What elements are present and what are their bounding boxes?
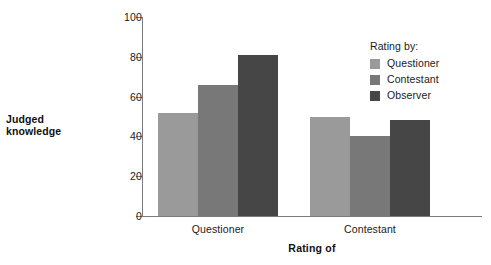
legend-title: Rating by: (370, 40, 488, 53)
x-axis-category-label: Questioner (158, 223, 278, 235)
legend-item: Contestant (370, 72, 488, 87)
y-axis-tick-label: 40 (112, 131, 142, 142)
bar (158, 113, 198, 216)
y-axis-tick-label: 60 (112, 92, 142, 103)
y-axis-tick-label: 0 (112, 211, 142, 222)
legend-item-label: Observer (387, 89, 431, 102)
legend-entries: QuestionerContestantObserver (370, 56, 488, 103)
x-axis-line (142, 216, 482, 217)
x-axis-category-label: Contestant (310, 223, 430, 235)
y-axis-title: Judged knowledge (6, 113, 98, 137)
bar (310, 117, 350, 217)
y-axis-tick-label: 80 (112, 52, 142, 63)
legend-item: Observer (370, 88, 488, 103)
bar (198, 85, 238, 216)
legend: Rating by: QuestionerContestantObserver (370, 40, 488, 104)
x-axis-title: Rating of (142, 242, 482, 254)
legend-item: Questioner (370, 56, 488, 71)
bar-chart: Judged knowledge 020406080100 Questioner… (0, 0, 491, 265)
bar (238, 55, 278, 216)
bar (350, 136, 390, 216)
bar (390, 120, 430, 216)
legend-item-label: Contestant (387, 73, 439, 86)
y-axis-tick-label: 20 (112, 171, 142, 182)
y-axis-tick-label: 100 (112, 12, 142, 23)
legend-swatch (370, 91, 380, 101)
legend-item-label: Questioner (387, 57, 439, 70)
legend-swatch (370, 75, 380, 85)
legend-swatch (370, 59, 380, 69)
